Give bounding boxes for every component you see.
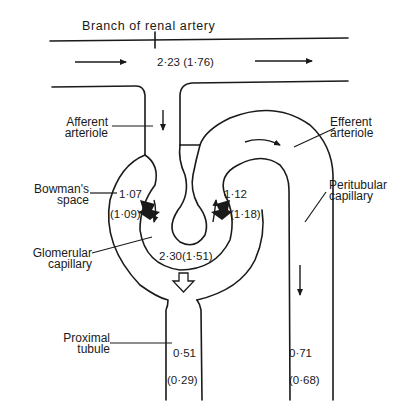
bowman-value: 1·07: [119, 188, 142, 200]
peritubular-capillary-label: Peritubular capillary: [329, 180, 387, 202]
efferent-arteriole-label: Efferent arteriole: [330, 117, 373, 139]
peritubular-value: 0·71: [289, 347, 312, 359]
glomerular-capillary-label: Glomerular capillary: [10, 248, 92, 270]
label-line: capillary: [329, 191, 387, 202]
proximal-value: 0·51: [173, 347, 196, 359]
efferent-value: 1·12: [224, 188, 247, 200]
label-line: arteriole: [330, 128, 373, 139]
label-line: capillary: [10, 259, 92, 270]
efferent-value-paren: (1·18): [230, 208, 261, 220]
bowmans-space-label: Bowman's space: [25, 184, 89, 206]
renal-artery-wall-top: [50, 38, 348, 41]
label-line: space: [25, 195, 89, 206]
label-line: tubule: [40, 344, 110, 355]
nephron-pressure-diagram: Branch of renal artery Afferent arteriol…: [0, 0, 416, 419]
peritubular-value-paren: (0·68): [289, 374, 320, 386]
bowman-value-paren: (1·09): [110, 208, 141, 220]
proximal-value-paren: (0·29): [167, 374, 198, 386]
glomerular-loop: [172, 145, 207, 245]
renal-artery-value: 2·23 (1·76): [157, 56, 214, 68]
label-line: arteriole: [50, 128, 108, 139]
filtrate-flow-arrow: [173, 273, 194, 292]
glomerular-value: 2·30(1·51): [159, 250, 213, 262]
afferent-arteriole-label: Afferent arteriole: [50, 117, 108, 139]
proximal-tubule-label: Proximal tubule: [40, 333, 110, 355]
renal-artery-title: Branch of renal artery: [82, 21, 215, 32]
